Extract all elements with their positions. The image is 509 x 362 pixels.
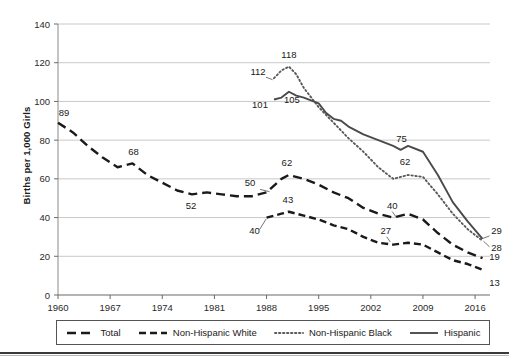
data-point-label: 28 [491, 242, 502, 253]
line-chart-plot: 0204060801001201401960196719741981198819… [0, 0, 509, 320]
data-point-label: 112 [250, 66, 265, 77]
y-tick-label: 80 [39, 135, 50, 146]
legend-item-non-hispanic-black[interactable]: Non-Hispanic Black [274, 327, 392, 338]
x-tick-label: 1995 [308, 302, 329, 313]
series-line-non-hispanic-black [274, 67, 483, 241]
legend-label: Non-Hispanic White [173, 327, 257, 338]
chart-figure: Births per 1,000 Girls 02040608010012014… [0, 0, 509, 362]
legend-swatch-dashed-long [66, 328, 96, 338]
data-point-label: 27 [380, 225, 391, 236]
series-line-hispanic [274, 92, 483, 239]
data-point-label: 40 [387, 200, 398, 211]
legend-swatch-dashed-short [138, 328, 168, 338]
data-point-label: 62 [282, 157, 293, 168]
y-tick-label: 20 [39, 251, 50, 262]
x-tick-label: 1974 [152, 302, 173, 313]
x-tick-label: 2002 [360, 302, 381, 313]
x-tick-label: 1981 [204, 302, 225, 313]
label-leader-line [260, 219, 267, 230]
y-tick-label: 40 [39, 212, 50, 223]
label-leader-line [266, 77, 273, 80]
label-leader-line [483, 236, 490, 239]
legend-swatch-solid [409, 328, 439, 338]
data-point-label: 40 [249, 225, 260, 236]
x-tick-label: 2009 [412, 302, 433, 313]
data-point-label: 43 [283, 194, 294, 205]
data-point-label: 101 [252, 99, 268, 110]
chart-legend: TotalNon-Hispanic WhiteNon-Hispanic Blac… [56, 320, 490, 345]
legend-item-hispanic[interactable]: Hispanic [409, 327, 480, 338]
data-point-label: 118 [281, 49, 296, 60]
legend-swatch-dotted [274, 328, 304, 338]
label-leader-line [260, 189, 269, 191]
footer-divider [0, 352, 509, 354]
footer-divider-secondary [0, 355, 509, 356]
data-point-label: 68 [128, 146, 139, 157]
y-tick-label: 120 [34, 57, 50, 68]
data-point-label: 52 [186, 200, 197, 211]
series-line-total [58, 123, 483, 259]
y-tick-label: 0 [45, 290, 50, 301]
y-tick-label: 60 [39, 173, 50, 184]
y-tick-label: 100 [34, 96, 50, 107]
data-point-label: 29 [491, 225, 502, 236]
legend-label: Hispanic [444, 327, 480, 338]
series-line-non-hispanic-white [267, 212, 483, 270]
y-tick-label: 140 [34, 19, 50, 30]
legend-item-non-hispanic-white[interactable]: Non-Hispanic White [138, 327, 257, 338]
x-tick-label: 2016 [465, 302, 486, 313]
data-point-label: 75 [396, 133, 407, 144]
label-leader-line [387, 237, 390, 242]
x-tick-label: 1967 [100, 302, 121, 313]
legend-label: Non-Hispanic Black [309, 327, 392, 338]
data-point-label: 50 [245, 177, 256, 188]
legend-item-total[interactable]: Total [66, 327, 121, 338]
data-point-label: 62 [400, 156, 411, 167]
x-tick-label: 1988 [256, 302, 277, 313]
data-point-label: 89 [59, 107, 70, 118]
label-leader-line [392, 212, 396, 218]
data-point-label: 13 [489, 277, 500, 288]
data-point-label: 19 [489, 251, 500, 262]
legend-label: Total [101, 327, 121, 338]
data-point-label: 105 [284, 94, 300, 105]
x-tick-label: 1960 [47, 302, 68, 313]
label-leader-line [484, 241, 490, 247]
